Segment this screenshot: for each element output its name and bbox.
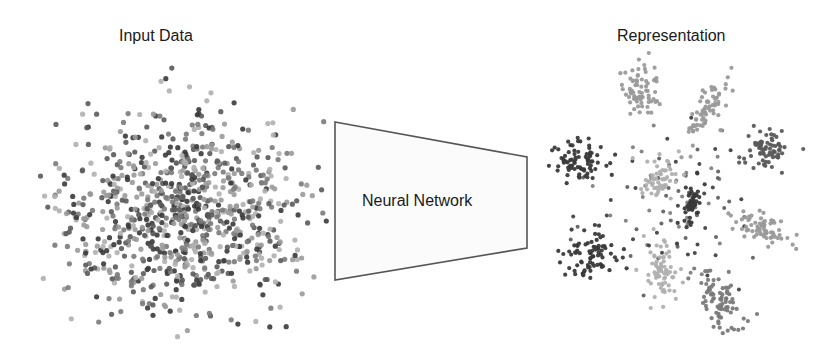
data-point [661,305,665,309]
data-point [639,101,643,105]
data-point [145,223,150,228]
data-point [140,225,145,230]
data-point [763,164,767,168]
data-point [615,258,619,262]
data-point [310,193,315,198]
data-point [779,219,783,223]
data-point [647,244,651,248]
data-point [119,173,124,178]
data-point [247,268,252,273]
data-point [639,187,643,191]
data-point [695,171,699,175]
data-point [183,263,188,268]
data-point [231,278,236,283]
data-point [141,271,146,276]
data-point [96,236,101,241]
data-point [268,306,273,311]
data-point [622,247,626,251]
data-point [229,271,234,276]
data-point [640,191,644,195]
data-point [693,251,697,255]
data-point [94,294,99,299]
data-point [637,90,641,94]
data-point [655,164,659,168]
data-point [85,271,90,276]
data-point [70,194,75,199]
data-point [700,118,704,122]
data-point [289,151,294,156]
data-point [277,151,282,156]
data-point [653,66,657,70]
data-point [168,145,173,150]
data-point [257,206,262,211]
data-point [83,242,88,247]
data-point [695,211,699,215]
data-point [597,224,601,228]
data-point [795,233,799,237]
data-point [226,144,231,149]
data-point [689,116,693,120]
data-point [276,201,281,206]
data-point [646,179,650,183]
data-point [649,191,653,195]
data-point [185,238,190,243]
data-point [736,328,740,332]
data-point [184,199,189,204]
data-point [179,282,184,287]
data-point [731,89,735,93]
data-point [206,272,211,277]
data-point [241,202,246,207]
data-point [631,145,635,149]
data-point [139,276,144,281]
data-point [691,125,695,129]
data-point [662,255,666,259]
data-point [106,296,111,301]
data-point [122,254,127,259]
data-point [249,235,254,240]
data-point [259,242,264,247]
data-point [577,241,581,245]
data-point [81,196,86,201]
data-point [83,263,88,268]
data-point [291,107,296,112]
data-point [278,258,283,263]
data-point [182,159,187,164]
data-point [771,230,775,234]
data-point [723,87,727,91]
data-point [104,193,109,198]
data-point [645,105,649,109]
data-point [567,266,571,270]
data-point [235,143,240,148]
data-point [718,241,722,245]
data-point [632,107,636,111]
data-point [740,227,744,231]
data-point [282,202,287,207]
data-point [570,143,574,147]
data-point [193,249,198,254]
data-point [300,291,305,296]
data-point [218,218,223,223]
data-point [139,160,144,165]
data-point [743,215,747,219]
data-point [686,253,690,257]
data-point [587,146,591,150]
data-point [148,152,153,157]
data-point [167,88,172,93]
data-point [770,138,774,142]
data-point [682,219,686,223]
data-point [762,228,766,232]
data-point [184,132,189,137]
data-point [220,185,225,190]
data-point [697,162,701,166]
data-point [645,160,649,164]
data-point [731,306,735,310]
data-point [194,144,199,149]
data-point [699,281,703,285]
data-point [624,219,628,223]
data-point [226,260,231,265]
representation-title: Representation [617,27,726,45]
data-point [208,90,213,95]
data-point [757,161,761,165]
data-point [685,225,689,229]
data-point [608,214,612,218]
